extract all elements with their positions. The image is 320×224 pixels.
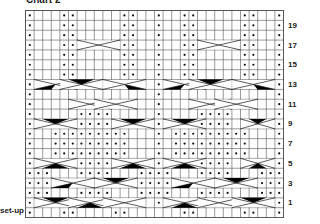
purl-dot (132, 24, 134, 26)
purl-dot (184, 133, 186, 135)
purl-dot (278, 73, 280, 75)
purl-dot (80, 113, 82, 115)
purl-dot (132, 34, 134, 36)
purl-dot (227, 162, 229, 164)
purl-dot (29, 14, 31, 16)
purl-dot (175, 143, 177, 145)
purl-dot (218, 113, 220, 115)
purl-dot (244, 44, 246, 46)
purl-dot (63, 54, 65, 56)
purl-dot (278, 103, 280, 105)
purl-dot (278, 192, 280, 194)
purl-dot (80, 162, 82, 164)
purl-dot (98, 133, 100, 135)
purl-dot (115, 133, 117, 135)
purl-dot (278, 54, 280, 56)
purl-dot (72, 64, 74, 66)
purl-dot (29, 123, 31, 125)
purl-dot (252, 44, 254, 46)
purl-dot (278, 44, 280, 46)
purl-dot (278, 182, 280, 184)
purl-dot (278, 212, 280, 214)
purl-dot (278, 133, 280, 135)
purl-dot (29, 103, 31, 105)
purl-dot (192, 54, 194, 56)
purl-dot (29, 73, 31, 75)
purl-dot (132, 44, 134, 46)
purl-dot (278, 202, 280, 204)
purl-dot (123, 212, 125, 214)
purl-dot (123, 133, 125, 135)
purl-dot (184, 24, 186, 26)
purl-dot (98, 123, 100, 125)
purl-dot (132, 73, 134, 75)
purl-dot (63, 34, 65, 36)
purl-dot (115, 143, 117, 145)
purl-dot (244, 212, 246, 214)
purl-dot (278, 14, 280, 16)
purl-dot (158, 73, 160, 75)
purl-dot (227, 152, 229, 154)
row-number-3: 3 (288, 179, 292, 188)
purl-dot (106, 172, 108, 174)
purl-dot (218, 123, 220, 125)
purl-dot (72, 73, 74, 75)
purl-dot (149, 172, 151, 174)
purl-dot (227, 192, 229, 194)
purl-dot (158, 143, 160, 145)
purl-dot (123, 54, 125, 56)
purl-dot (201, 172, 203, 174)
purl-dot (123, 34, 125, 36)
purl-dot (209, 192, 211, 194)
purl-dot (244, 54, 246, 56)
purl-dot (123, 24, 125, 26)
purl-dot (141, 182, 143, 184)
purl-dot (209, 133, 211, 135)
purl-dot (123, 152, 125, 154)
purl-dot (89, 133, 91, 135)
purl-dot (72, 14, 74, 16)
purl-dot (55, 143, 57, 145)
purl-dot (278, 34, 280, 36)
purl-dot (209, 162, 211, 164)
purl-dot (55, 133, 57, 135)
purl-dot (184, 212, 186, 214)
purl-dot (29, 202, 31, 204)
purl-dot (158, 103, 160, 105)
purl-dot (244, 152, 246, 154)
purl-dot (158, 123, 160, 125)
purl-dot (37, 192, 39, 194)
purl-dot (63, 73, 65, 75)
purl-dot (123, 64, 125, 66)
purl-dot (278, 172, 280, 174)
purl-dot (63, 143, 65, 145)
purl-dot (270, 192, 272, 194)
purl-dot (166, 192, 168, 194)
purl-dot (209, 143, 211, 145)
purl-dot (29, 162, 31, 164)
chart-svg (25, 10, 284, 218)
purl-dot (158, 54, 160, 56)
purl-dot (29, 24, 31, 26)
purl-dot (192, 152, 194, 154)
purl-dot (29, 113, 31, 115)
purl-dot (29, 44, 31, 46)
purl-dot (132, 14, 134, 16)
purl-dot (89, 152, 91, 154)
purl-dot (29, 133, 31, 135)
purl-dot (158, 113, 160, 115)
purl-dot (115, 212, 117, 214)
purl-dot (252, 73, 254, 75)
purl-dot (63, 14, 65, 16)
purl-dot (158, 34, 160, 36)
purl-dot (132, 64, 134, 66)
purl-dot (158, 133, 160, 135)
purl-dot (192, 14, 194, 16)
purl-dot (270, 182, 272, 184)
purl-dot (192, 73, 194, 75)
row-number-7: 7 (288, 139, 292, 148)
purl-dot (278, 152, 280, 154)
purl-dot (98, 152, 100, 154)
purl-dot (218, 162, 220, 164)
purl-dot (158, 202, 160, 204)
